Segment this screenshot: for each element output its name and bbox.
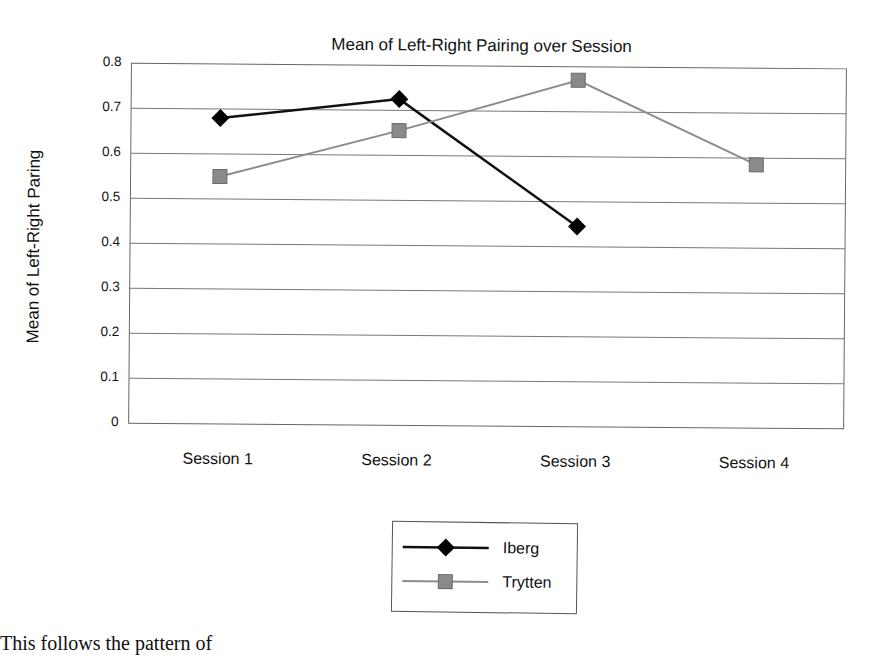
- gridline: [130, 243, 845, 249]
- legend: Iberg Trytten: [391, 521, 578, 614]
- series-line-trytten: [220, 77, 757, 180]
- legend-label: Trytten: [502, 573, 551, 592]
- square-marker-icon: [749, 158, 763, 172]
- gridline: [131, 108, 846, 114]
- gridline: [129, 333, 844, 339]
- diamond-marker-icon: [401, 537, 491, 558]
- gridline: [130, 198, 845, 204]
- chart: Mean of Left-Right Pairing over Session …: [0, 0, 875, 649]
- diamond-marker-icon: [568, 217, 586, 235]
- body-text: This follows the pattern of: [0, 632, 212, 655]
- legend-item-trytten: Trytten: [400, 568, 552, 596]
- diamond-marker-icon: [390, 90, 408, 108]
- diamond-marker-icon: [211, 109, 229, 127]
- square-marker-icon: [571, 73, 585, 87]
- gridline: [129, 378, 844, 384]
- gridline: [130, 288, 845, 294]
- legend-label: Iberg: [503, 539, 540, 557]
- square-marker-icon: [392, 124, 406, 138]
- legend-item-iberg: Iberg: [401, 534, 540, 562]
- square-marker-icon: [213, 169, 227, 183]
- square-marker-icon: [400, 571, 490, 592]
